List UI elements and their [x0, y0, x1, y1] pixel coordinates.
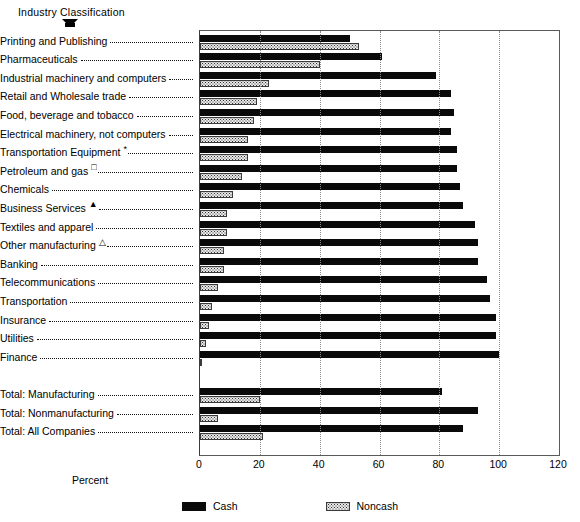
category-label-text: Textiles and apparel: [0, 221, 96, 233]
category-label: Retail and Wholesale trade: [0, 90, 193, 102]
leader-dots: [110, 36, 193, 46]
legend-label-noncash: Noncash: [357, 500, 398, 512]
category-label: Total: Manufacturing: [0, 388, 193, 400]
category-label-text: Transportation Equipment: [0, 146, 123, 158]
bar-noncash: [200, 359, 202, 366]
category-label: Industrial machinery and computers: [0, 72, 193, 84]
category-label-text: Other manufacturing: [0, 239, 99, 251]
legend-swatch-noncash: [326, 502, 350, 511]
x-tick-label: 60: [373, 458, 385, 470]
category-label-text: Total: All Companies: [0, 425, 98, 437]
category-label: Textiles and apparel: [0, 221, 193, 233]
bar-cash: [200, 258, 478, 265]
bar-noncash: [200, 43, 359, 50]
bar-cash: [200, 332, 496, 339]
x-tick-label: 100: [489, 458, 507, 470]
bar-cash: [200, 183, 460, 190]
bar-noncash: [200, 266, 224, 273]
category-label-text: Industrial machinery and computers: [0, 72, 169, 84]
bar-cash: [200, 425, 463, 432]
bar-noncash: [200, 98, 257, 105]
leader-dots: [129, 91, 193, 101]
bar-cash: [200, 53, 382, 60]
category-label-text: Printing and Publishing: [0, 35, 110, 47]
bar-cash: [200, 295, 490, 302]
bar-noncash: [200, 322, 209, 329]
bar-cash: [200, 90, 451, 97]
category-label-text: Finance: [0, 351, 40, 363]
category-label-text: Retail and Wholesale trade: [0, 90, 129, 102]
category-label: Utilities: [0, 332, 193, 344]
bar-noncash: [200, 303, 212, 310]
gridline: [320, 31, 321, 455]
leader-dots: [49, 315, 193, 325]
category-label-text: Chemicals: [0, 183, 52, 195]
leader-dots: [98, 389, 193, 399]
bar-noncash: [200, 247, 224, 254]
leader-dots: [37, 333, 193, 343]
gridline: [260, 31, 261, 455]
bar-noncash: [200, 340, 206, 347]
category-label: Transportation Equipment*: [0, 146, 193, 158]
bar-cash: [200, 221, 475, 228]
bar-noncash: [200, 191, 233, 198]
bar-noncash: [200, 433, 263, 440]
legend-item-cash: Cash: [182, 500, 238, 512]
bar-noncash: [200, 210, 227, 217]
bar-noncash: [200, 415, 218, 422]
category-label: Other manufacturing△: [0, 239, 193, 251]
category-label: Banking: [0, 258, 193, 270]
category-footnote-marker: △: [99, 238, 107, 247]
chart-legend: Cash Noncash: [0, 496, 580, 516]
category-footnote-marker: ▲: [89, 200, 99, 209]
category-label-text: Telecommunications: [0, 276, 98, 288]
x-tick-label: 0: [196, 458, 202, 470]
bar-noncash: [200, 80, 269, 87]
leader-dots: [98, 166, 193, 176]
category-label: Finance: [0, 351, 193, 363]
category-label: Petroleum and gas□: [0, 165, 193, 177]
category-label-text: Pharmaceuticals: [0, 53, 81, 65]
x-axis-ticks: 020406080100120: [0, 458, 580, 474]
bar-cash: [200, 276, 487, 283]
category-label: Total: All Companies: [0, 425, 193, 437]
leader-dots: [41, 259, 193, 269]
bar-cash: [200, 239, 478, 246]
bar-cash: [200, 109, 454, 116]
category-label: Pharmaceuticals: [0, 53, 193, 65]
category-label-text: Business Services: [0, 202, 89, 214]
category-label-text: Petroleum and gas: [0, 165, 91, 177]
category-label: Insurance: [0, 314, 193, 326]
bar-noncash: [200, 154, 248, 161]
bar-noncash: [200, 284, 218, 291]
leader-dots: [52, 184, 193, 194]
bar-cash: [200, 128, 451, 135]
category-label: Food, beverage and tobacco: [0, 109, 193, 121]
bar-cash: [200, 314, 496, 321]
x-tick-label: 20: [253, 458, 265, 470]
x-tick-label: 120: [549, 458, 567, 470]
category-label: Business Services▲: [0, 202, 193, 214]
leader-dots: [70, 296, 193, 306]
bar-cash: [200, 388, 442, 395]
category-label: Total: Nonmanufacturing: [0, 407, 193, 419]
x-axis-title: Percent: [0, 474, 580, 486]
bar-noncash: [200, 136, 248, 143]
leader-dots: [128, 147, 193, 157]
bar-cash: [200, 146, 457, 153]
category-label: Electrical machinery, not computers: [0, 128, 193, 140]
leader-dots: [99, 203, 193, 213]
legend-swatch-cash: [182, 502, 206, 511]
category-label-column: Printing and PublishingPharmaceuticalsIn…: [0, 30, 199, 456]
category-label-text: Insurance: [0, 314, 49, 326]
gridline: [380, 31, 381, 455]
bar-noncash: [200, 396, 260, 403]
y-axis-title: Industry Classification: [18, 6, 125, 18]
leader-dots: [137, 110, 193, 120]
leader-dots: [81, 54, 193, 64]
leader-dots: [96, 222, 193, 232]
leader-dots: [169, 73, 193, 83]
category-label: Transportation: [0, 295, 193, 307]
leader-dots: [107, 240, 193, 250]
down-arrow-icon: [62, 19, 78, 27]
